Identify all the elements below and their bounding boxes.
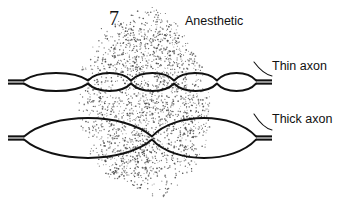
thick-axon xyxy=(8,118,272,158)
callout-lines xyxy=(254,62,272,130)
thin-axon-callout xyxy=(254,62,272,76)
axon-anesthetic-diagram xyxy=(0,0,343,207)
figure-container: 7 Anesthetic Thin axon Thick axon xyxy=(0,0,343,207)
anesthetic-stipple-region xyxy=(78,7,210,197)
thick-axon-callout xyxy=(254,114,272,130)
thick-axon-label: Thick axon xyxy=(272,113,332,126)
thin-axon-label: Thin axon xyxy=(272,60,327,73)
anesthetic-label: Anesthetic xyxy=(185,15,243,28)
thin-axon xyxy=(8,73,272,91)
figure-number-label: 7 xyxy=(109,8,119,28)
axon-membrane-upper xyxy=(24,73,256,80)
